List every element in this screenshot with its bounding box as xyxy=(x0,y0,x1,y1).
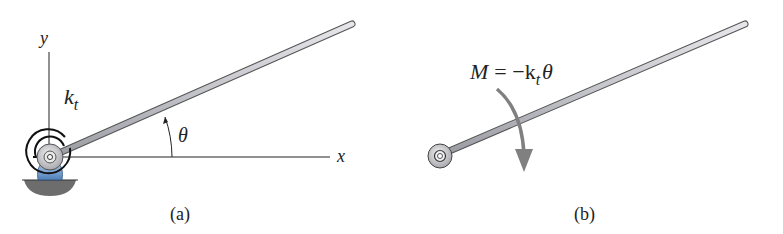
x-axis-label: x xyxy=(336,146,345,166)
rod-eye-pin xyxy=(438,154,443,159)
angle-label: θ xyxy=(178,124,188,146)
rod-b xyxy=(440,24,745,155)
spring-constant-label: kt xyxy=(64,84,79,113)
diagram-canvas: y x kt θ (a) xyxy=(0,0,783,234)
rod-a xyxy=(50,24,352,157)
caption-b: (b) xyxy=(574,204,595,225)
y-axis-label: y xyxy=(38,28,48,48)
moment-arrowhead xyxy=(515,149,533,172)
pivot-pin xyxy=(48,155,53,160)
caption-a: (a) xyxy=(170,204,190,225)
angle-arc xyxy=(165,117,172,157)
figure-b: M= −ktθ (b) xyxy=(428,24,745,225)
figure-a: y x kt θ (a) xyxy=(22,24,352,225)
moment-equation: M= −ktθ xyxy=(469,59,553,88)
ground-support xyxy=(24,180,76,196)
